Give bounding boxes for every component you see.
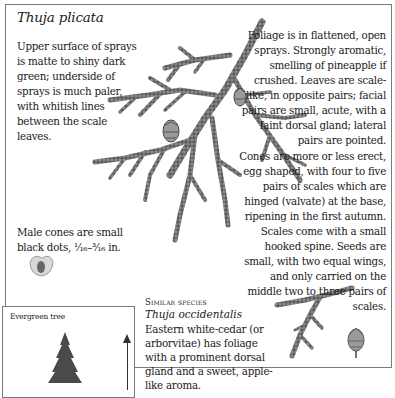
similar-species-heading: Similar species xyxy=(145,297,207,307)
tree-type-label: Evergreen tree xyxy=(10,312,65,321)
foliage-note: Foliage is in flattened, open sprays. St… xyxy=(240,28,386,148)
upper-surface-note: Upper surface of sprays is matte to shin… xyxy=(17,39,142,144)
species-title: Thuja plicata xyxy=(17,9,104,25)
similar-cone-icon xyxy=(348,328,364,358)
evergreen-tree-icon xyxy=(40,330,90,383)
height-arrow-line xyxy=(127,340,128,390)
similar-species-name: Thuja occidentalis xyxy=(145,308,242,320)
cone-icon xyxy=(163,120,179,142)
similar-species-description: Eastern white-cedar (or arborvitae) has … xyxy=(145,322,280,392)
male-cone-icon xyxy=(30,256,53,276)
cones-note: Cones are more or less erect, egg shaped… xyxy=(236,149,386,314)
male-cones-note: Male cones are small black dots, ¹⁄₁₆–³⁄… xyxy=(17,225,127,255)
